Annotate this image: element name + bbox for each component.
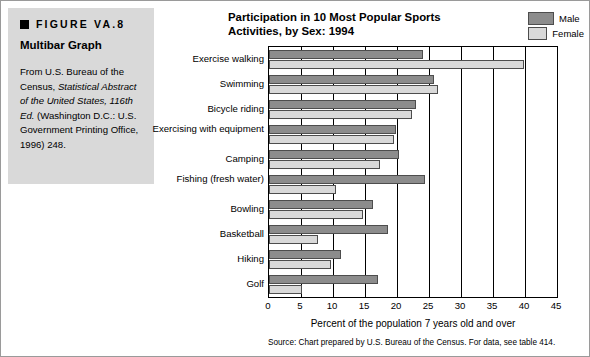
legend-label-female: Female xyxy=(552,28,584,39)
plot-area xyxy=(268,46,558,298)
x-axis-ticks: 051015202530354045 xyxy=(268,300,558,314)
category-label: Fishing (fresh water) xyxy=(140,173,264,184)
bullet-square-icon xyxy=(20,20,29,29)
bar-male xyxy=(269,50,423,59)
category-label: Swimming xyxy=(140,78,264,89)
gridline xyxy=(525,47,526,297)
bar-male xyxy=(269,150,399,159)
chart-page: FIGURE VA.8 Multibar Graph From U.S. Bur… xyxy=(0,0,590,357)
bar-female xyxy=(269,210,363,219)
gridline xyxy=(461,47,462,297)
bar-female xyxy=(269,160,380,169)
x-tick-label: 25 xyxy=(423,300,434,311)
bar-male xyxy=(269,75,434,84)
x-tick-label: 15 xyxy=(359,300,370,311)
x-tick-label: 0 xyxy=(265,300,270,311)
legend-item-female: Female xyxy=(528,27,584,40)
category-axis-labels: Exercise walkingSwimmingBicycle ridingEx… xyxy=(140,46,264,298)
x-tick-label: 35 xyxy=(487,300,498,311)
bar-male xyxy=(269,225,388,234)
bar-male xyxy=(269,275,378,284)
gridline xyxy=(493,47,494,297)
figure-caption-panel: FIGURE VA.8 Multibar Graph From U.S. Bur… xyxy=(8,8,154,184)
x-axis-label: Percent of the population 7 years old an… xyxy=(268,318,558,329)
bar-female xyxy=(269,260,331,269)
x-tick-label: 10 xyxy=(327,300,338,311)
category-label: Exercising with equipment xyxy=(140,123,264,134)
bar-male xyxy=(269,200,373,209)
bar-female xyxy=(269,235,318,244)
bar-male xyxy=(269,100,416,109)
category-label: Golf xyxy=(140,278,264,289)
legend-swatch-female xyxy=(528,27,547,40)
bar-male xyxy=(269,125,396,134)
bar-female xyxy=(269,110,412,119)
figure-source-note: From U.S. Bureau of the Census, Statisti… xyxy=(20,65,142,152)
bar-female xyxy=(269,85,438,94)
bar-female xyxy=(269,185,336,194)
bar-female xyxy=(269,135,394,144)
category-label: Basketball xyxy=(140,228,264,239)
category-label: Hiking xyxy=(140,253,264,264)
x-tick-label: 30 xyxy=(455,300,466,311)
category-label: Exercise walking xyxy=(140,53,264,64)
category-label: Camping xyxy=(140,153,264,164)
x-tick-label: 40 xyxy=(519,300,530,311)
legend-label-male: Male xyxy=(559,13,580,24)
x-tick-label: 45 xyxy=(551,300,562,311)
chart-title: Participation in 10 Most Popular Sports … xyxy=(228,10,488,38)
category-label: Bowling xyxy=(140,203,264,214)
x-tick-label: 20 xyxy=(391,300,402,311)
figure-label-row: FIGURE VA.8 xyxy=(20,18,125,30)
legend-item-male: Male xyxy=(528,12,584,25)
category-label: Bicycle riding xyxy=(140,103,264,114)
bar-male xyxy=(269,175,425,184)
bar-female xyxy=(269,60,524,69)
bar-female xyxy=(269,285,302,294)
bar-male xyxy=(269,250,341,259)
legend-swatch-male xyxy=(528,12,554,25)
chart-source-line: Source: Chart prepared by U.S. Bureau of… xyxy=(268,338,580,347)
chart-legend: Male Female xyxy=(528,12,584,42)
source-note-part2: (Washington D.C.: U.S. Government Printi… xyxy=(20,110,138,150)
figure-label: FIGURE VA.8 xyxy=(36,18,125,30)
x-tick-label: 5 xyxy=(297,300,302,311)
figure-title: Multibar Graph xyxy=(20,39,102,51)
